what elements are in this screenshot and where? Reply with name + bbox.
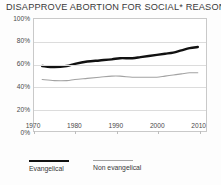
x-axis-tick-label: 1970	[26, 122, 41, 129]
x-axis-labels: 19701980199020002010	[0, 122, 221, 134]
x-axis-tick-label: 2010	[191, 122, 206, 129]
gridline	[34, 87, 206, 88]
legend-swatch-icon	[29, 160, 69, 162]
x-axis-tick-label: 1980	[67, 122, 82, 129]
chart-legend: EvangelicalNon evangelical	[0, 160, 221, 180]
x-axis-tick-label: 1990	[109, 122, 124, 129]
chart-container: DISAPPROVE ABORTION FOR SOCIAL* REASONS …	[0, 0, 221, 185]
plot-area	[33, 18, 207, 132]
y-axis-tick-label: 80%	[2, 37, 30, 44]
legend-item-evangelical[interactable]: Evangelical	[29, 160, 69, 172]
legend-label: Evangelical	[29, 165, 69, 172]
chart-title: DISAPPROVE ABORTION FOR SOCIAL* REASONS	[6, 2, 221, 12]
x-axis-tick-label: 2000	[150, 122, 165, 129]
gridline	[34, 42, 206, 43]
legend-item-non-evangelical[interactable]: Non evangelical	[93, 160, 141, 171]
y-axis-tick-label: 100%	[2, 15, 30, 22]
series-lines	[34, 19, 206, 131]
legend-label: Non evangelical	[93, 164, 141, 171]
gridline	[34, 65, 206, 66]
series-line-non-evangelical	[42, 73, 198, 81]
legend-swatch-icon	[93, 160, 133, 161]
y-axis-tick-label: 20%	[2, 106, 30, 113]
y-axis-tick-label: 40%	[2, 83, 30, 90]
y-axis-tick-label: 60%	[2, 60, 30, 67]
gridline	[34, 110, 206, 111]
